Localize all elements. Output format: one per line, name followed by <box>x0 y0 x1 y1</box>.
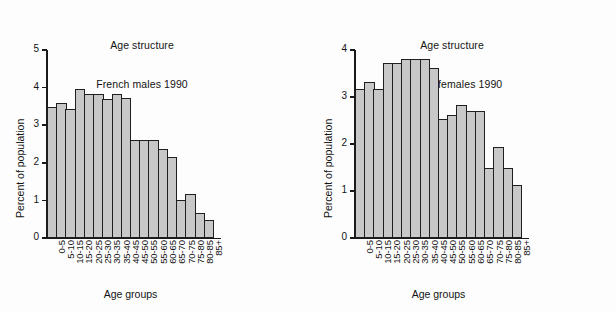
x-tick-label: 85+ <box>205 240 214 286</box>
x-tick-label: 60-65 <box>158 240 167 286</box>
x-axis-label-females: Age groups <box>355 288 522 300</box>
y-tick: 3 <box>350 96 355 98</box>
y-tick: 5 <box>42 49 47 51</box>
bar-series-females <box>355 50 522 238</box>
x-tick-label: 15-20 <box>383 240 392 286</box>
x-tick-label: 75-80 <box>186 240 195 286</box>
x-tick-label: 55-60 <box>149 240 158 286</box>
y-tick-label: 1 <box>33 193 39 206</box>
x-tick-label: 0-5 <box>355 240 364 286</box>
x-tick-label: 5-10 <box>56 240 65 286</box>
bar-series-males <box>47 50 214 238</box>
y-tick-label: 4 <box>33 80 39 93</box>
x-tick-label: 45-50 <box>439 240 448 286</box>
chart-panel-males: Age structure French males 1990 Percent … <box>0 0 308 312</box>
x-tick-labels-males: 0-55-1010-1515-2020-2525-3030-3535-4040-… <box>47 240 214 286</box>
y-tick-label: 1 <box>341 183 347 196</box>
y-tick: 4 <box>42 87 47 89</box>
x-tick-label: 75-80 <box>494 240 503 286</box>
x-tick-label: 55-60 <box>457 240 466 286</box>
y-axis-label-females: Percent of population <box>322 119 334 218</box>
x-tick-label: 50-55 <box>448 240 457 286</box>
x-tick-label: 65-70 <box>168 240 177 286</box>
x-tick-label: 0-5 <box>47 240 56 286</box>
y-tick-label: 0 <box>33 230 39 243</box>
y-tick: 1 <box>350 190 355 192</box>
x-tick-label: 15-20 <box>75 240 84 286</box>
y-tick: 2 <box>42 162 47 164</box>
x-tick-label: 20-25 <box>84 240 93 286</box>
y-tick-label: 0 <box>341 230 347 243</box>
x-tick-label: 25-30 <box>401 240 410 286</box>
figure-canvas: Age structure French males 1990 Percent … <box>0 0 616 312</box>
y-tick: 0 <box>350 237 355 239</box>
y-tick-label: 3 <box>341 89 347 102</box>
x-tick-labels-females: 0-55-1010-1515-2020-2525-3030-3535-4040-… <box>355 240 522 286</box>
x-tick-label: 30-35 <box>411 240 420 286</box>
y-tick-label: 2 <box>33 155 39 168</box>
x-tick-label: 25-30 <box>93 240 102 286</box>
x-tick-label: 80-85 <box>504 240 513 286</box>
x-tick-label: 35-40 <box>112 240 121 286</box>
y-tick: 2 <box>350 143 355 145</box>
x-tick-label: 70-75 <box>485 240 494 286</box>
x-tick-label: 40-45 <box>121 240 130 286</box>
y-tick-label: 2 <box>341 136 347 149</box>
x-tick-label: 70-75 <box>177 240 186 286</box>
plot-area-males: 012345 <box>47 50 214 238</box>
x-tick-label: 40-45 <box>429 240 438 286</box>
x-tick-label: 35-40 <box>420 240 429 286</box>
y-tick-label: 3 <box>33 117 39 130</box>
x-tick-label: 30-35 <box>103 240 112 286</box>
x-tick-label: 50-55 <box>140 240 149 286</box>
x-tick-label: 10-15 <box>374 240 383 286</box>
x-tick-label: 65-70 <box>476 240 485 286</box>
x-tick-label: 45-50 <box>131 240 140 286</box>
y-axis-label-males: Percent of population <box>14 119 26 218</box>
x-tick-label: 10-15 <box>66 240 75 286</box>
plot-area-females: 01234 <box>355 50 522 238</box>
x-tick-label: 85+ <box>513 240 522 286</box>
y-tick: 0 <box>42 237 47 239</box>
y-tick: 1 <box>42 200 47 202</box>
bar <box>512 185 522 238</box>
x-tick-label: 60-65 <box>466 240 475 286</box>
y-tick-label: 5 <box>33 42 39 55</box>
x-tick-label-text: 85+ <box>214 240 224 256</box>
x-tick-label-text: 85+ <box>522 240 532 256</box>
x-tick-label: 20-25 <box>392 240 401 286</box>
y-tick: 3 <box>42 124 47 126</box>
y-tick-label: 4 <box>341 42 347 55</box>
x-tick-label: 5-10 <box>364 240 373 286</box>
x-tick-label: 80-85 <box>196 240 205 286</box>
x-axis-label-males: Age groups <box>47 288 214 300</box>
y-tick: 4 <box>350 49 355 51</box>
bar <box>204 220 214 238</box>
